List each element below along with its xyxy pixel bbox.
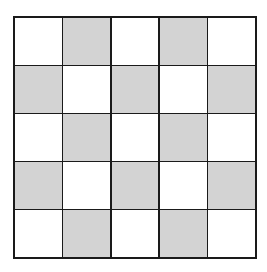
shaded-cell [208, 66, 255, 113]
white-cell [160, 66, 207, 113]
shaded-cell [15, 66, 62, 113]
shaded-cell [208, 162, 255, 209]
shaded-cell [112, 162, 159, 209]
white-cell [112, 210, 159, 257]
white-cell [15, 210, 62, 257]
white-cell [208, 18, 255, 65]
shaded-cell [63, 18, 110, 65]
shaded-cell [112, 66, 159, 113]
white-cell [208, 210, 255, 257]
white-cell [15, 18, 62, 65]
white-cell [208, 114, 255, 161]
white-cell [112, 18, 159, 65]
white-cell [63, 66, 110, 113]
white-cell [63, 162, 110, 209]
white-cell [112, 114, 159, 161]
white-cell [160, 162, 207, 209]
shaded-cell [63, 210, 110, 257]
shaded-cell [160, 18, 207, 65]
checkerboard-grid [13, 16, 257, 259]
shaded-cell [15, 162, 62, 209]
white-cell [15, 114, 62, 161]
shaded-cell [63, 114, 110, 161]
shaded-cell [160, 114, 207, 161]
shaded-cell [160, 210, 207, 257]
